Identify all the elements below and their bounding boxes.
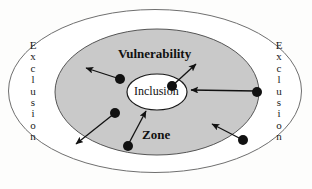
vulnerability-zone-diagram: Exclusion Exclusion Vulnerability Zone I… <box>0 0 312 189</box>
exclusion-left-char-8: n <box>26 131 40 142</box>
exclusion-right-char-8: n <box>272 131 286 142</box>
node-mid-left <box>110 108 120 118</box>
exclusion-right-char-3: l <box>272 74 286 85</box>
exclusion-label-right: Exclusion <box>272 40 286 143</box>
node-bottom-center <box>123 141 133 151</box>
node-right-edge <box>252 87 262 97</box>
inclusion-label: Inclusion <box>134 84 179 99</box>
zone-label: Zone <box>142 127 170 143</box>
exclusion-left-char-3: l <box>26 74 40 85</box>
vulnerability-label: Vulnerability <box>118 46 191 62</box>
node-upper-left <box>115 74 125 84</box>
exclusion-label-left: Exclusion <box>26 40 40 143</box>
node-bottom-right <box>238 135 248 145</box>
